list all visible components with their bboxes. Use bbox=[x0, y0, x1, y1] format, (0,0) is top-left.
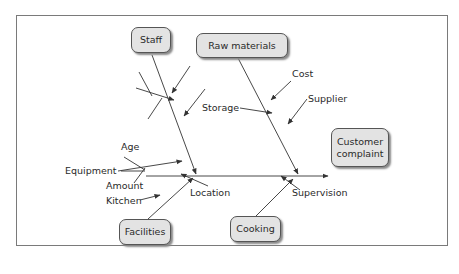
category-label: Staff bbox=[140, 34, 162, 46]
category-label: Cooking bbox=[236, 223, 274, 235]
cause-cost: Cost bbox=[292, 68, 313, 79]
cause-storage: Storage bbox=[202, 102, 239, 113]
cause-supervision: Supervision bbox=[292, 187, 348, 198]
cause-location: Location bbox=[190, 187, 230, 198]
category-facilities: Facilities bbox=[119, 219, 171, 245]
cause-amount: Amount bbox=[106, 180, 143, 191]
raw-materials-bone bbox=[238, 58, 298, 174]
cause-supplier: Supplier bbox=[308, 93, 347, 104]
effect-customer-complaint: Customercomplaint bbox=[331, 128, 389, 167]
category-cooking: Cooking bbox=[230, 216, 281, 242]
category-label: Facilities bbox=[125, 226, 166, 238]
facilities-bone bbox=[148, 178, 193, 219]
category-label: Raw materials bbox=[208, 40, 276, 52]
effect-label: Customercomplaint bbox=[336, 136, 383, 160]
cooking-bone bbox=[256, 179, 293, 216]
cause-age: Age bbox=[121, 141, 139, 152]
cause-kitchen: Kitchen bbox=[106, 195, 142, 206]
category-staff: Staff bbox=[131, 27, 171, 53]
cause-equipment: Equipment bbox=[65, 165, 117, 176]
staff-bone bbox=[152, 55, 196, 174]
category-raw-materials: Raw materials bbox=[196, 33, 288, 58]
